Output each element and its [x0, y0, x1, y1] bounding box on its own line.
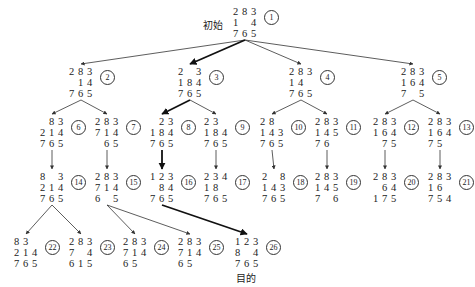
board-row: 765 — [204, 193, 231, 204]
board-cell: 3 — [87, 236, 96, 247]
board-cell: 7 — [260, 138, 269, 149]
board-cell: 2 — [428, 116, 437, 127]
board-cell: 4 — [58, 182, 67, 193]
board-cell: 4 — [32, 247, 41, 258]
board-row: 283 — [95, 171, 122, 182]
board-cell: 7 — [14, 258, 23, 269]
board-cell: 1 — [78, 77, 87, 88]
board-cell: 8 — [104, 171, 113, 182]
board-cell: 6 — [95, 193, 104, 204]
board-cell: 3 — [446, 116, 455, 127]
board-row: 75 — [428, 138, 455, 149]
board-cell: 4 — [196, 247, 205, 258]
board-row: 175 — [373, 193, 400, 204]
board-cell — [244, 247, 253, 258]
board-row: 765 — [178, 88, 205, 99]
board-cell: 2 — [315, 171, 324, 182]
board-cell: 1 — [260, 127, 269, 138]
board-cell: 4 — [168, 182, 177, 193]
puzzle-board: 23418765 — [204, 171, 231, 204]
board-cell: 3 — [446, 171, 455, 182]
board-cell: 5 — [391, 193, 400, 204]
board-cell: 5 — [132, 258, 141, 269]
board-cell: 2 — [244, 236, 253, 247]
board-cell: 8 — [40, 171, 49, 182]
puzzle-board: 28314765 — [289, 66, 316, 99]
board-cell: 6 — [213, 138, 222, 149]
board-row: 65 — [178, 258, 205, 269]
board-cell: 6 — [159, 193, 168, 204]
board-cell — [196, 258, 205, 269]
board-row: 18 — [204, 182, 231, 193]
board-row: 765 — [69, 88, 96, 99]
node-number-badge: 25 — [209, 240, 224, 255]
puzzle-board: 28371465 — [178, 236, 205, 269]
board-cell: 5 — [222, 138, 231, 149]
tree-edge-arrow — [81, 40, 245, 64]
puzzle-board: 23184765 — [150, 116, 177, 149]
node-number-badge: 15 — [126, 175, 141, 190]
node-number-badge: 1 — [264, 10, 279, 25]
board-cell: 1 — [150, 127, 159, 138]
board-cell: 8 — [324, 171, 333, 182]
board-cell: 4 — [113, 127, 122, 138]
node-number-badge: 17 — [235, 175, 250, 190]
board-cell: 1 — [315, 182, 324, 193]
board-row: 283 — [401, 66, 428, 77]
board-row: 765 — [40, 193, 67, 204]
board-cell: 8 — [213, 182, 222, 193]
puzzle-board: 28316475 — [373, 116, 400, 149]
node-number-badge: 19 — [346, 175, 361, 190]
goal-label: 目的 — [236, 270, 256, 285]
puzzle-board: 28314765 — [69, 66, 96, 99]
board-cell — [446, 182, 455, 193]
board-cell: 3 — [278, 127, 287, 138]
board-row: 765 — [289, 88, 316, 99]
board-cell: 4 — [324, 182, 333, 193]
board-cell: 1 — [401, 77, 410, 88]
board-cell: 6 — [271, 193, 280, 204]
node-number-badge: 11 — [346, 120, 361, 135]
board-cell: 6 — [242, 28, 251, 39]
board-row: 714 — [178, 247, 205, 258]
puzzle-board: 23184765 — [178, 66, 205, 99]
board-cell: 7 — [233, 28, 242, 39]
board-cell: 3 — [213, 116, 222, 127]
node-number-badge: 4 — [320, 70, 335, 85]
puzzle-board: 28374615 — [69, 236, 96, 269]
puzzle-board: 83214765 — [40, 116, 67, 149]
board-cell: 1 — [373, 193, 382, 204]
node-number-badge: 14 — [71, 175, 86, 190]
board-cell: 2 — [40, 127, 49, 138]
board-cell: 6 — [187, 88, 196, 99]
board-row: 283 — [373, 116, 400, 127]
board-cell — [373, 138, 382, 149]
board-row: 283 — [428, 116, 455, 127]
board-cell: 6 — [437, 182, 446, 193]
board-cell — [40, 116, 49, 127]
board-cell: 8 — [159, 182, 168, 193]
board-cell: 5 — [437, 138, 446, 149]
board-cell: 1 — [204, 127, 213, 138]
board-row: 765 — [233, 28, 260, 39]
board-cell: 4 — [168, 127, 177, 138]
tree-edge-arrow — [81, 100, 107, 114]
tree-edge-arrow — [107, 205, 190, 234]
board-cell: 7 — [262, 193, 271, 204]
board-cell: 3 — [419, 66, 428, 77]
puzzle-board: 28364175 — [373, 171, 400, 204]
board-cell: 7 — [40, 193, 49, 204]
board-cell: 8 — [187, 77, 196, 88]
board-cell: 7 — [235, 258, 244, 269]
tree-edge-arrow — [52, 205, 81, 234]
puzzle-board: 28371465 — [95, 171, 122, 204]
board-cell: 8 — [235, 247, 244, 258]
board-row: 143 — [262, 182, 289, 193]
board-cell: 7 — [315, 193, 324, 204]
board-cell: 1 — [49, 182, 58, 193]
board-cell: 2 — [204, 171, 213, 182]
board-cell: 7 — [382, 138, 391, 149]
node-number-badge: 8 — [181, 120, 196, 135]
board-row: 14 — [69, 77, 96, 88]
board-cell: 6 — [178, 258, 187, 269]
